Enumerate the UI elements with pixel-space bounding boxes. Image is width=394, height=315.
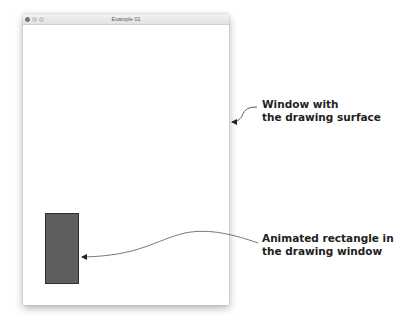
rectangle-annotation-line2: the drawing window [262, 245, 394, 258]
window-annotation-line2: the drawing surface [262, 111, 381, 124]
drawing-surface[interactable] [23, 25, 229, 305]
window-callout-arrow [232, 107, 257, 122]
window-annotation: Window with the drawing surface [262, 98, 381, 124]
rectangle-annotation: Animated rectangle in the drawing window [262, 232, 394, 258]
animated-rectangle [45, 213, 79, 284]
title-bar[interactable]: Example 01 [23, 14, 229, 25]
app-window: Example 01 [23, 14, 229, 305]
window-title: Example 01 [23, 14, 229, 24]
window-annotation-line1: Window with [262, 98, 381, 111]
rectangle-annotation-line1: Animated rectangle in [262, 232, 394, 245]
